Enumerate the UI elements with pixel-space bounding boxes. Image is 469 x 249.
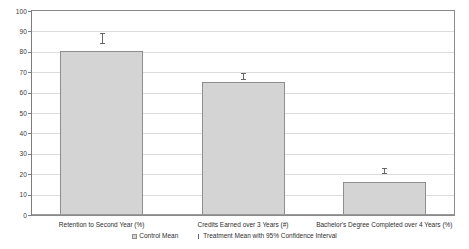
y-axis-tick-label: 50 <box>3 110 27 117</box>
bar-chart: 0102030405060708090100 Retention to Seco… <box>0 0 469 249</box>
error-bar-cap-low <box>382 173 387 174</box>
legend-label-treatment: Treatment Mean with 95% Confidence Inter… <box>203 232 336 240</box>
y-axis-tick-label: 20 <box>3 171 27 178</box>
y-axis-tick-label: 10 <box>3 191 27 198</box>
control-mean-swatch-icon <box>132 234 137 239</box>
gridline <box>32 31 454 32</box>
y-axis-tick <box>28 72 31 73</box>
y-axis-tick <box>28 195 31 196</box>
y-axis-tick <box>28 174 31 175</box>
y-axis-tick-label: 70 <box>3 69 27 76</box>
y-axis-tick-label: 40 <box>3 130 27 137</box>
y-axis-tick-labels: 0102030405060708090100 <box>0 0 27 249</box>
error-bar-cap-high <box>100 33 105 34</box>
plot-area <box>31 10 455 216</box>
x-axis-category-label: Retention to Second Year (%) <box>59 221 145 229</box>
x-axis-baseline <box>32 214 454 215</box>
legend-label-control: Control Mean <box>139 232 178 240</box>
y-axis-tick <box>28 11 31 12</box>
y-axis-tick-label: 90 <box>3 28 27 35</box>
y-axis-tick <box>28 133 31 134</box>
y-axis-tick <box>28 93 31 94</box>
y-axis-tick <box>28 215 31 216</box>
bar <box>60 51 143 215</box>
y-axis-tick <box>28 113 31 114</box>
x-axis-category-label: Bachelor's Degree Completed over 4 Years… <box>316 221 452 229</box>
error-bar-cap-low <box>241 79 246 80</box>
y-axis-tick-label: 100 <box>3 8 27 15</box>
bar <box>343 182 426 215</box>
y-axis-tick <box>28 52 31 53</box>
y-axis-line <box>31 10 32 216</box>
error-bar-cap-high <box>241 73 246 74</box>
x-axis-category-label: Credits Earned over 3 Years (#) <box>197 221 288 229</box>
bar <box>202 82 285 215</box>
y-axis-tick-label: 60 <box>3 89 27 96</box>
chart-legend: Control Mean Treatment Mean with 95% Con… <box>0 232 469 240</box>
error-bar-cap-low <box>100 43 105 44</box>
y-axis-tick-label: 0 <box>3 212 27 219</box>
y-axis-tick-label: 80 <box>3 48 27 55</box>
y-axis-tick <box>28 154 31 155</box>
y-axis-tick <box>28 31 31 32</box>
y-axis-tick-label: 30 <box>3 150 27 157</box>
error-bar-cap-high <box>382 168 387 169</box>
legend-entry-treatment: Treatment Mean with 95% Confidence Inter… <box>196 232 336 240</box>
legend-entry-control: Control Mean <box>132 232 178 240</box>
treatment-mean-errorbar-icon <box>196 234 201 239</box>
